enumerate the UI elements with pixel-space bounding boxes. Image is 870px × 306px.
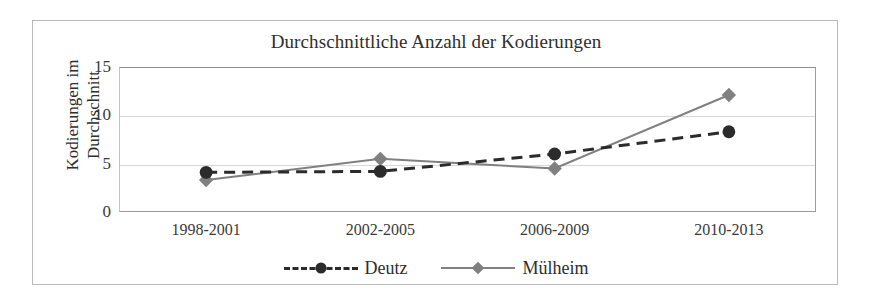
x-tick-label: 2010-2013 bbox=[649, 221, 809, 239]
series-line-deutz bbox=[206, 132, 729, 173]
x-tick-label: 2002-2005 bbox=[300, 221, 460, 239]
legend-label: Deutz bbox=[365, 258, 408, 279]
legend-entry-deutz[interactable]: Deutz bbox=[284, 258, 408, 279]
y-tick-label: 0 bbox=[71, 202, 111, 222]
data-point-marker bbox=[374, 165, 387, 178]
x-axis-tick-labels: 1998-20012002-20052006-20092010-2013 bbox=[119, 221, 816, 247]
y-axis-tick-labels: 051015 bbox=[69, 67, 111, 212]
series-layer bbox=[119, 67, 816, 212]
x-tick-label: 2006-2009 bbox=[475, 221, 635, 239]
data-point-marker bbox=[722, 125, 735, 138]
chart-figure: Durchschnittliche Anzahl der Kodierungen… bbox=[0, 0, 870, 306]
chart-frame: Durchschnittliche Anzahl der Kodierungen… bbox=[32, 20, 838, 285]
legend-marker-icon bbox=[472, 262, 485, 275]
legend-swatch-circle-icon bbox=[284, 261, 358, 275]
data-point-marker bbox=[200, 166, 213, 179]
y-tick-label: 5 bbox=[71, 154, 111, 174]
y-tick-label: 15 bbox=[71, 57, 111, 77]
data-point-marker bbox=[722, 88, 736, 102]
chart-legend: DeutzMülheim bbox=[33, 254, 839, 282]
series-line-mülheim bbox=[206, 95, 729, 180]
x-tick-label: 1998-2001 bbox=[126, 221, 286, 239]
legend-swatch-diamond-icon bbox=[441, 261, 515, 275]
chart-title: Durchschnittliche Anzahl der Kodierungen bbox=[33, 31, 839, 53]
legend-label: Mülheim bbox=[522, 258, 588, 279]
legend-entry-mülheim[interactable]: Mülheim bbox=[441, 258, 588, 279]
y-tick-label: 10 bbox=[71, 105, 111, 125]
legend-marker-icon bbox=[315, 263, 326, 274]
data-point-marker bbox=[373, 152, 387, 166]
data-point-marker bbox=[548, 148, 561, 161]
data-point-marker bbox=[547, 161, 561, 175]
